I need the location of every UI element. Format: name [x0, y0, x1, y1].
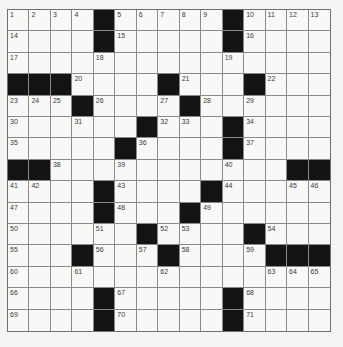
grid-cell[interactable]: 7 [158, 10, 179, 31]
grid-cell[interactable]: 38 [51, 160, 72, 181]
grid-cell[interactable] [309, 310, 330, 331]
grid-cell[interactable]: 42 [29, 181, 50, 202]
grid-cell[interactable] [180, 267, 201, 288]
grid-cell[interactable] [51, 245, 72, 266]
grid-cell[interactable] [158, 203, 179, 224]
grid-cell[interactable]: 43 [115, 181, 136, 202]
grid-cell[interactable]: 23 [8, 96, 29, 117]
grid-cell[interactable] [51, 181, 72, 202]
grid-cell[interactable] [29, 31, 50, 52]
grid-cell[interactable] [201, 245, 222, 266]
grid-cell[interactable] [72, 31, 93, 52]
grid-cell[interactable]: 24 [29, 96, 50, 117]
grid-cell[interactable]: 13 [309, 10, 330, 31]
grid-cell[interactable] [223, 245, 244, 266]
grid-cell[interactable] [51, 53, 72, 74]
grid-cell[interactable]: 30 [8, 117, 29, 138]
grid-cell[interactable] [137, 203, 158, 224]
grid-cell[interactable] [309, 138, 330, 159]
grid-cell[interactable]: 35 [8, 138, 29, 159]
grid-cell[interactable]: 31 [72, 117, 93, 138]
grid-cell[interactable] [201, 160, 222, 181]
grid-cell[interactable] [266, 288, 287, 309]
grid-cell[interactable] [137, 310, 158, 331]
grid-cell[interactable] [51, 138, 72, 159]
grid-cell[interactable] [223, 224, 244, 245]
grid-cell[interactable] [94, 138, 115, 159]
grid-cell[interactable]: 26 [94, 96, 115, 117]
grid-cell[interactable] [287, 117, 308, 138]
grid-cell[interactable] [223, 267, 244, 288]
grid-cell[interactable] [51, 117, 72, 138]
grid-cell[interactable] [309, 203, 330, 224]
grid-cell[interactable] [180, 160, 201, 181]
grid-cell[interactable]: 40 [223, 160, 244, 181]
grid-cell[interactable] [94, 117, 115, 138]
grid-cell[interactable] [309, 96, 330, 117]
grid-cell[interactable] [72, 181, 93, 202]
grid-cell[interactable] [72, 288, 93, 309]
grid-cell[interactable] [72, 203, 93, 224]
grid-cell[interactable] [244, 160, 265, 181]
grid-cell[interactable] [158, 288, 179, 309]
grid-cell[interactable]: 71 [244, 310, 265, 331]
grid-cell[interactable]: 27 [158, 96, 179, 117]
grid-cell[interactable]: 47 [8, 203, 29, 224]
grid-cell[interactable] [266, 96, 287, 117]
grid-cell[interactable]: 25 [51, 96, 72, 117]
grid-cell[interactable]: 29 [244, 96, 265, 117]
grid-cell[interactable]: 39 [115, 160, 136, 181]
grid-cell[interactable]: 5 [115, 10, 136, 31]
grid-cell[interactable] [29, 138, 50, 159]
grid-cell[interactable]: 64 [287, 267, 308, 288]
grid-cell[interactable]: 55 [8, 245, 29, 266]
grid-cell[interactable] [223, 203, 244, 224]
grid-cell[interactable] [51, 224, 72, 245]
grid-cell[interactable] [309, 288, 330, 309]
grid-cell[interactable] [115, 53, 136, 74]
grid-cell[interactable] [266, 181, 287, 202]
grid-cell[interactable] [201, 117, 222, 138]
grid-cell[interactable] [137, 74, 158, 95]
grid-cell[interactable] [94, 160, 115, 181]
grid-cell[interactable]: 67 [115, 288, 136, 309]
grid-cell[interactable] [29, 203, 50, 224]
grid-cell[interactable] [287, 138, 308, 159]
grid-cell[interactable] [137, 181, 158, 202]
grid-cell[interactable]: 16 [244, 31, 265, 52]
grid-cell[interactable] [287, 203, 308, 224]
grid-cell[interactable] [158, 53, 179, 74]
grid-cell[interactable] [180, 288, 201, 309]
grid-cell[interactable] [309, 31, 330, 52]
grid-cell[interactable] [115, 117, 136, 138]
grid-cell[interactable] [287, 310, 308, 331]
grid-cell[interactable] [244, 203, 265, 224]
grid-cell[interactable] [287, 53, 308, 74]
grid-cell[interactable] [158, 31, 179, 52]
grid-cell[interactable]: 3 [51, 10, 72, 31]
grid-cell[interactable] [223, 74, 244, 95]
grid-cell[interactable]: 56 [94, 245, 115, 266]
grid-cell[interactable] [309, 74, 330, 95]
grid-cell[interactable] [29, 224, 50, 245]
grid-cell[interactable]: 19 [223, 53, 244, 74]
grid-cell[interactable] [287, 288, 308, 309]
grid-cell[interactable] [115, 224, 136, 245]
grid-cell[interactable]: 18 [94, 53, 115, 74]
grid-cell[interactable]: 41 [8, 181, 29, 202]
grid-cell[interactable]: 46 [309, 181, 330, 202]
grid-cell[interactable]: 66 [8, 288, 29, 309]
grid-cell[interactable] [137, 160, 158, 181]
grid-cell[interactable] [266, 160, 287, 181]
grid-cell[interactable] [137, 288, 158, 309]
grid-cell[interactable]: 8 [180, 10, 201, 31]
grid-cell[interactable] [51, 31, 72, 52]
grid-cell[interactable] [223, 96, 244, 117]
grid-cell[interactable]: 12 [287, 10, 308, 31]
grid-cell[interactable] [244, 267, 265, 288]
grid-cell[interactable]: 52 [158, 224, 179, 245]
grid-cell[interactable] [180, 310, 201, 331]
grid-cell[interactable] [309, 53, 330, 74]
grid-cell[interactable]: 51 [94, 224, 115, 245]
grid-cell[interactable]: 14 [8, 31, 29, 52]
